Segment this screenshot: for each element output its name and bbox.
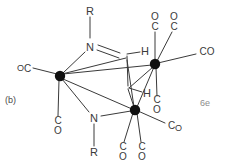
atom-label-hydrogen-top: H — [141, 46, 149, 57]
carbonyl-label-left: OC — [17, 63, 31, 74]
bond-n-top-to-metal-left — [63, 52, 85, 73]
carbonyl-right-top-a-carbon: C — [151, 22, 159, 32]
atom-label-nitrogen-top: N — [86, 42, 94, 53]
carbonyl-label-right-lower: C O — [153, 95, 161, 115]
carbonyl-label-bottom-right: CO — [168, 121, 182, 133]
bond-metal-left-to-c-top — [62, 58, 126, 74]
carbonyl-right-lower-oxygen: O — [153, 105, 161, 115]
carbonyl-label-right-side: CO — [199, 47, 214, 57]
bond-metal-right-co-side — [158, 54, 196, 63]
metal-atom-right — [150, 59, 160, 69]
atom-label-hydrogen-bottom: H — [143, 88, 151, 99]
carbonyl-bottom-right-oxygen: O — [175, 123, 182, 133]
bond-metal-bottom-co-b — [137, 113, 141, 142]
bond-c-top-to-h — [127, 52, 140, 54]
bond-metal-right-co-lower — [156, 67, 157, 96]
bond-metal-bottom-co-a — [124, 113, 133, 142]
atom-label-nitrogen-bottom: N — [90, 113, 98, 124]
bond-metal-right-co-top-b — [157, 32, 172, 61]
bond-n-bottom-to-metal-bottom — [101, 111, 131, 116]
bond-metal-left-to-metal-right — [63, 65, 152, 74]
carbonyl-label-left-bottom: C O — [54, 116, 62, 136]
structure-bond-skeleton — [0, 0, 227, 166]
carbonyl-bottom-a-oxygen: O — [119, 152, 127, 162]
electron-count-label: 6e — [200, 99, 210, 108]
substituent-label-r-bottom: R — [90, 147, 98, 158]
bond-metal-left-co-bottom — [58, 80, 59, 116]
chemical-structure-figure: R N H H N R OC C O O C O C CO C O CO C O… — [0, 0, 227, 166]
carbonyl-label-right-top-b: O C — [170, 12, 178, 32]
carbonyl-right-side-oxygen: O — [207, 46, 215, 57]
panel-label: (b) — [5, 96, 16, 105]
bond-metal-left-to-metal-bottom — [63, 79, 132, 109]
carbonyl-label-bottom-a: C O — [119, 142, 127, 162]
carbonyl-left-oxygen: O — [17, 63, 24, 73]
carbonyl-label-bottom-b: C O — [138, 142, 146, 162]
carbonyl-right-top-b-carbon: C — [170, 22, 178, 32]
metal-atom-bottom — [130, 105, 140, 115]
substituent-label-r-top: R — [86, 6, 94, 17]
carbonyl-left-carbon: C — [24, 63, 31, 74]
bond-metal-left-co-left — [33, 68, 57, 74]
carbonyl-left-bottom-oxygen: O — [54, 126, 62, 136]
metal-atom-left — [55, 71, 65, 81]
carbonyl-bottom-b-oxygen: O — [138, 152, 146, 162]
carbonyl-label-right-top-a: O C — [151, 12, 159, 32]
